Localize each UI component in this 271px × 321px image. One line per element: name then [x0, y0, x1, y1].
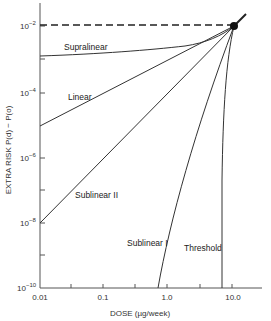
- svg-text:10−4: 10−4: [20, 87, 36, 98]
- x-tick-labels: 0.01 0.1 1.0 10.0: [32, 293, 241, 302]
- x-ticks: [71, 284, 232, 288]
- label-threshold: Threshold: [184, 243, 222, 253]
- x-axis-title: DOSE (µg/week): [110, 309, 171, 318]
- label-sublinear-2: Sublinear II: [75, 190, 118, 200]
- curve-threshold: [222, 26, 234, 288]
- dose-response-chart: 10−2 10−4 10−6 10−8 10−10 0.01 0.1 1.0 1…: [0, 0, 271, 321]
- y-tick-labels: 10−2 10−4 10−6 10−8 10−10: [17, 20, 37, 293]
- label-sublinear-1: Sublinear I: [127, 238, 168, 248]
- svg-text:10−2: 10−2: [20, 20, 36, 31]
- svg-text:10−8: 10−8: [20, 217, 36, 228]
- svg-text:10−6: 10−6: [20, 152, 36, 163]
- anchor-point: [230, 22, 238, 30]
- svg-text:0.1: 0.1: [97, 293, 109, 302]
- svg-text:1.0: 1.0: [161, 293, 173, 302]
- y-axis-title: EXTRA RISK P(d) − P(o): [4, 105, 13, 194]
- label-supralinear: Supralinear: [64, 42, 108, 52]
- svg-text:10−10: 10−10: [17, 282, 37, 293]
- curve-linear: [40, 26, 234, 126]
- svg-text:0.01: 0.01: [32, 293, 48, 302]
- label-linear: Linear: [68, 92, 92, 102]
- curve-sublinear-2: [40, 26, 234, 223]
- svg-text:10.0: 10.0: [225, 293, 241, 302]
